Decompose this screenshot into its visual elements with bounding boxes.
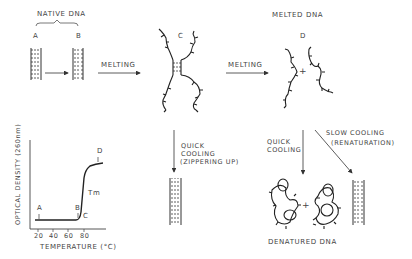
melting-label-2: MELTING: [228, 62, 263, 69]
quick-cooling-label-1: QUICK: [267, 139, 291, 146]
renatured-dna-helix: [353, 180, 364, 225]
state-c-label: C: [178, 33, 184, 40]
x-tick-40: 40: [49, 233, 58, 240]
chart-y-axis-label: OPTICAL DENSITY (260nm): [15, 124, 22, 225]
slow-cooling-label-2: (RENATURATION): [331, 140, 395, 147]
chart-point-tm: Tm: [88, 190, 100, 197]
native-dna-label: NATIVE DNA: [37, 11, 86, 18]
partially-melted-dna-c: [159, 29, 203, 112]
x-tick-80: 80: [80, 233, 89, 240]
native-dna-bracket: [36, 20, 78, 26]
state-a-label: A: [33, 33, 38, 40]
quick-cooling-zipper-label-1: QUICK: [181, 143, 205, 150]
quick-cooling-zipper-label-2: COOLING: [181, 151, 215, 158]
chart-point-c: C: [83, 213, 89, 220]
native-dna-helix-a: [31, 48, 41, 80]
melting-curve-chart: [30, 140, 106, 232]
chart-point-b: B: [75, 205, 80, 212]
quick-cooling-label-2: COOLING: [267, 147, 301, 154]
melted-dna-label: MELTED DNA: [272, 12, 323, 19]
melting-label-1: MELTING: [101, 62, 136, 69]
x-tick-60: 60: [64, 233, 73, 240]
x-tick-20: 20: [34, 233, 43, 240]
denatured-dna-label: DENATURED DNA: [268, 239, 337, 246]
chart-point-a: A: [37, 205, 42, 212]
melted-dna-strands-d: [283, 47, 333, 108]
native-dna-helix-b: [73, 48, 83, 80]
state-d-label: D: [300, 33, 306, 40]
plus-sign-2: +: [302, 201, 310, 210]
slow-cooling-label-1: SLOW COOLING: [326, 130, 385, 137]
chart-point-d: D: [97, 148, 103, 155]
state-b-label: B: [76, 33, 81, 40]
quick-cooling-zipper-label-3: (ZIPPERING UP): [180, 159, 239, 166]
zippered-dna-helix: [170, 178, 181, 225]
chart-x-axis-label: TEMPERATURE (°C): [40, 244, 117, 251]
plus-sign-1: +: [299, 67, 307, 76]
